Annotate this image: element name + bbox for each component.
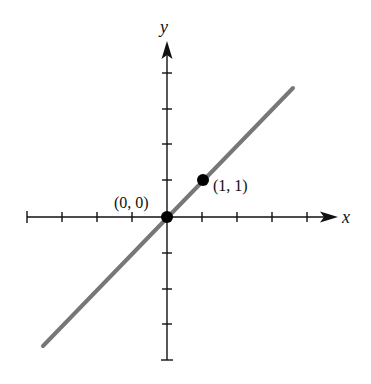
- point-one-one: [197, 174, 209, 186]
- x-axis: [27, 211, 330, 223]
- x-axis-label: x: [341, 207, 350, 227]
- origin-point-label: (0, 0): [114, 194, 149, 212]
- point-origin: [161, 211, 173, 223]
- y-axis-label: y: [158, 17, 168, 37]
- chart-canvas: x y (0, 0) (1, 1): [0, 0, 371, 384]
- y-axis: [161, 50, 173, 360]
- unit-point-label: (1, 1): [213, 177, 248, 195]
